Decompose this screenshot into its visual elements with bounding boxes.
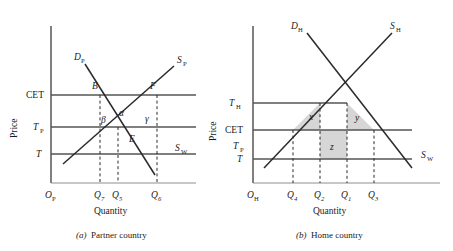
- home-curve-label-dh-main: D: [290, 21, 298, 31]
- partner-curve-label-dp: D P: [73, 52, 85, 64]
- partner-origin-main: O: [45, 190, 52, 200]
- partner-caption-text: Partner country: [91, 230, 147, 240]
- home-area-label-x: x: [308, 112, 314, 122]
- home-caption-text: Home country: [311, 230, 363, 240]
- home-curve-label-sw-main: S: [421, 150, 426, 160]
- partner-qtick-q5-main: Q: [112, 190, 119, 200]
- partner-qtick-q5-sub: 5: [119, 195, 123, 202]
- partner-point-e: E: [128, 134, 135, 144]
- home-origin-label: O H: [247, 190, 259, 202]
- home-price-axis-title: Price: [208, 121, 218, 141]
- home-shaded-triangle-x: [293, 103, 320, 130]
- home-curve-label-dh-sub: H: [298, 26, 303, 33]
- partner-caption-prefix: (a): [76, 230, 87, 240]
- partner-qtick-q6-main: Q: [151, 190, 158, 200]
- home-area-label-y: y: [354, 113, 360, 123]
- home-origin-sub: H: [254, 195, 259, 202]
- partner-qtick-q6: Q 6: [151, 190, 162, 202]
- partner-price-label-cet: CET: [26, 90, 44, 100]
- economics-figure: Price CET T P T O P Q 7 Q 5 Q 6 Quantity: [0, 0, 453, 251]
- partner-qtick-q7-sub: 7: [101, 195, 105, 202]
- partner-qtick-q5: Q 5: [112, 190, 123, 202]
- partner-price-label-t: T: [36, 149, 42, 159]
- partner-curve-label-dp-sub: P: [81, 57, 85, 64]
- partner-caption: (a) Partner country: [76, 230, 147, 240]
- home-curve-label-sw: S W: [421, 150, 434, 162]
- home-qtick-q1-sub: 1: [348, 195, 351, 202]
- partner-curve-label-sp: S P: [177, 55, 187, 67]
- home-price-label-th-main: T: [229, 98, 235, 108]
- home-price-label-tp-main: T: [233, 141, 239, 151]
- partner-price-label-tp: T P: [33, 122, 44, 134]
- home-qtick-q3: Q 3: [368, 190, 379, 202]
- home-curve-label-sw-sub: W: [427, 155, 434, 162]
- figure-svg: Price CET T P T O P Q 7 Q 5 Q 6 Quantity: [0, 0, 453, 251]
- home-qtick-q3-sub: 3: [374, 195, 379, 202]
- partner-point-f: F: [149, 81, 156, 91]
- partner-qtick-q6-sub: 6: [158, 195, 162, 202]
- partner-quantity-axis-title: Quantity: [94, 206, 127, 216]
- partner-price-axis-title: Price: [9, 118, 19, 138]
- home-price-label-cet: CET: [225, 125, 243, 135]
- home-curve-label-sh-main: S: [390, 21, 395, 31]
- partner-qtick-q7-main: Q: [94, 190, 101, 200]
- partner-area-beta: β: [100, 115, 106, 125]
- partner-origin-sub: P: [52, 195, 56, 202]
- partner-curve-label-sp-main: S: [177, 55, 182, 65]
- partner-curve-label-sp-sub: P: [183, 60, 187, 67]
- home-price-label-tp: T P: [233, 141, 244, 153]
- partner-origin-label: O P: [45, 190, 56, 202]
- home-qtick-q2: Q 2: [314, 190, 325, 202]
- home-origin-main: O: [247, 190, 254, 200]
- home-price-label-t: T: [237, 154, 243, 164]
- home-quantity-axis-title: Quantity: [313, 206, 346, 216]
- partner-curve-label-dp-main: D: [73, 52, 81, 62]
- partner-price-label-tp-sub: P: [40, 127, 44, 134]
- home-qtick-q2-main: Q: [314, 190, 321, 200]
- partner-curve-label-sw-sub: W: [181, 148, 188, 155]
- panel-partner: Price CET T P T O P Q 7 Q 5 Q 6 Quantity: [9, 26, 196, 240]
- home-qtick-q4: Q 4: [287, 190, 298, 202]
- home-qtick-q4-main: Q: [287, 190, 294, 200]
- home-shaded-triangle-y: [347, 103, 374, 130]
- home-curve-label-dh: D H: [290, 21, 303, 33]
- partner-price-label-tp-main: T: [33, 122, 39, 132]
- home-curve-label-sh: S H: [390, 21, 401, 33]
- home-area-label-z: z: [329, 142, 334, 152]
- home-caption-prefix: (b): [296, 230, 307, 240]
- home-price-label-th: T H: [229, 98, 241, 110]
- home-price-label-th-sub: H: [236, 103, 241, 110]
- partner-area-gamma: γ: [145, 114, 149, 124]
- panel-home: Price T H CET T P T O H Q 4 Q 2 Q 1: [208, 21, 440, 240]
- partner-curve-label-sw-main: S: [175, 143, 180, 153]
- home-qtick-q4-sub: 4: [294, 195, 298, 202]
- home-qtick-q2-sub: 2: [321, 195, 325, 202]
- home-price-label-tp-sub: P: [240, 146, 244, 153]
- partner-qtick-q7: Q 7: [94, 190, 105, 202]
- home-caption: (b) Home country: [296, 230, 363, 240]
- home-qtick-q1-main: Q: [341, 190, 348, 200]
- home-qtick-q3-main: Q: [368, 190, 375, 200]
- partner-point-b: B: [92, 81, 98, 91]
- partner-curve-label-sw: S W: [175, 143, 188, 155]
- home-qtick-q1: Q 1: [341, 190, 351, 202]
- home-curve-label-sh-sub: H: [396, 26, 401, 33]
